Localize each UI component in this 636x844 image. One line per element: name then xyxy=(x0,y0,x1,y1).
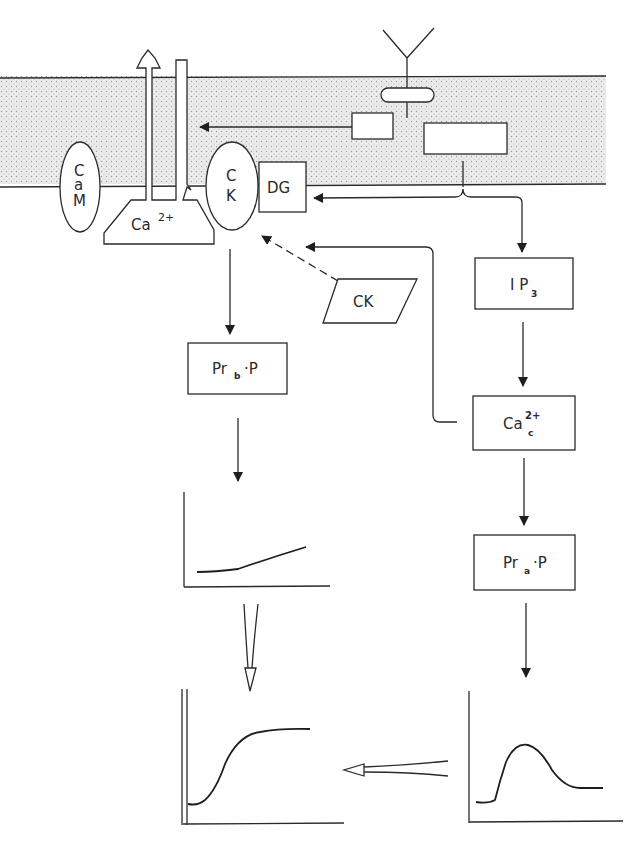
graph-combined-response xyxy=(182,689,344,825)
graph-initial-phase xyxy=(469,691,623,823)
svg-text:M: M xyxy=(73,192,86,210)
membrane-substrate-box xyxy=(424,123,507,154)
membrane-enzyme-box xyxy=(352,113,393,139)
svg-text:3: 3 xyxy=(531,289,537,299)
svg-text:Pr: Pr xyxy=(212,360,228,378)
ca-cytosolic-node: Ca 2+ c xyxy=(473,396,575,450)
ck-translocation-arrow xyxy=(262,236,338,281)
c-kinase-cytosol-node: CK xyxy=(323,279,417,323)
diacylglycerol-node: DG xyxy=(259,162,306,212)
svg-text:Pr: Pr xyxy=(503,554,519,572)
svg-text:I P: I P xyxy=(510,276,528,294)
svg-text:·P: ·P xyxy=(533,554,547,572)
svg-text:K: K xyxy=(226,187,237,205)
svg-text:Ca: Ca xyxy=(503,415,523,433)
svg-text:a: a xyxy=(524,566,530,576)
channel-ca-charge: 2+ xyxy=(158,211,174,224)
svg-text:2+: 2+ xyxy=(525,410,540,421)
pr-a-p-node: Pr a ·P xyxy=(474,535,575,590)
graph-sustained-phase xyxy=(184,492,330,587)
brace-split-arrow xyxy=(316,189,522,252)
svg-text:b: b xyxy=(234,371,241,381)
svg-text:CK: CK xyxy=(353,293,374,311)
svg-text:·P: ·P xyxy=(244,360,258,378)
svg-text:DG: DG xyxy=(267,179,290,197)
ip3-node: I P 3 xyxy=(475,258,573,309)
c-kinase-membrane-node: C K xyxy=(206,142,258,230)
svg-text:c: c xyxy=(528,428,533,438)
hollow-arrow-down xyxy=(244,604,258,691)
calcium-feedback-arrow xyxy=(306,247,457,422)
pr-b-p-node: Pr b ·P xyxy=(188,343,287,394)
hollow-arrow-left xyxy=(344,761,448,776)
calcium-signaling-diagram: Ca 2+ C a M C K DG CK Pr b ·P xyxy=(0,0,636,844)
svg-text:C: C xyxy=(226,167,236,185)
calmodulin-node: C a M xyxy=(60,142,100,232)
channel-ca-label: Ca xyxy=(131,216,151,234)
